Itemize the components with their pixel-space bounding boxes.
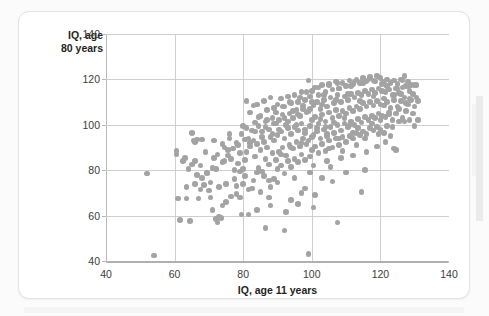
- data-point: [347, 122, 353, 128]
- data-point: [369, 121, 375, 127]
- data-point: [175, 196, 181, 202]
- data-point: [239, 131, 245, 137]
- data-point: [247, 140, 253, 146]
- data-point: [297, 95, 303, 101]
- data-point: [403, 108, 409, 114]
- data-point: [312, 192, 318, 198]
- data-point: [244, 149, 250, 155]
- figure-card: IQ, age 80 years 406080100120140 4060801…: [18, 11, 470, 299]
- data-point: [225, 147, 231, 153]
- data-point: [186, 166, 192, 172]
- data-point: [295, 159, 301, 165]
- data-point: [376, 131, 382, 137]
- x-axis-label: IQ, age 11 years: [106, 284, 449, 296]
- y-tick-label: 100: [82, 119, 100, 131]
- data-point: [208, 180, 214, 186]
- data-point: [336, 136, 342, 142]
- data-point: [252, 129, 258, 135]
- data-point: [275, 180, 281, 186]
- data-point: [403, 100, 409, 106]
- data-point: [391, 92, 397, 98]
- data-point: [396, 106, 402, 112]
- data-point: [223, 199, 229, 205]
- data-point: [151, 253, 157, 259]
- data-point: [280, 145, 286, 151]
- data-point: [398, 91, 404, 97]
- data-point: [348, 83, 354, 89]
- data-point: [302, 130, 308, 136]
- x-tick-label: 80: [237, 268, 249, 280]
- data-point: [268, 95, 274, 101]
- data-point: [362, 167, 368, 173]
- data-point: [242, 173, 248, 179]
- y-tick-label: 60: [88, 210, 100, 222]
- data-point: [319, 141, 325, 147]
- data-point: [237, 150, 243, 156]
- data-point: [312, 144, 318, 150]
- data-point: [264, 145, 270, 151]
- data-point: [287, 99, 293, 105]
- data-point: [364, 149, 370, 155]
- data-point: [268, 203, 274, 209]
- data-point: [359, 189, 365, 195]
- data-point: [306, 251, 312, 257]
- data-point: [354, 142, 360, 148]
- data-point: [240, 181, 246, 187]
- data-point: [270, 131, 276, 137]
- data-point: [357, 106, 363, 112]
- data-point: [251, 178, 257, 184]
- data-point: [276, 127, 282, 133]
- data-point: [282, 136, 288, 142]
- data-point: [244, 98, 250, 104]
- data-point: [326, 146, 332, 152]
- data-point: [270, 150, 276, 156]
- data-point: [372, 79, 378, 85]
- data-point: [350, 130, 356, 136]
- data-point: [264, 117, 270, 123]
- data-point: [379, 81, 385, 87]
- data-point: [311, 163, 317, 169]
- data-point: [174, 148, 180, 154]
- y-tick-label: 140: [82, 28, 100, 40]
- data-point: [285, 119, 291, 125]
- data-point: [177, 217, 183, 223]
- data-point: [307, 106, 313, 112]
- data-point: [235, 161, 241, 167]
- data-point: [343, 170, 349, 176]
- data-point: [324, 131, 330, 137]
- data-point: [330, 179, 336, 185]
- data-point: [338, 128, 344, 134]
- data-point: [234, 191, 240, 197]
- data-point: [256, 114, 262, 120]
- data-point: [278, 96, 284, 102]
- data-point: [144, 171, 150, 177]
- y-tick-label: 120: [82, 73, 100, 85]
- data-point: [218, 215, 224, 221]
- data-point: [246, 212, 252, 218]
- data-point: [345, 91, 351, 97]
- data-point: [282, 228, 288, 234]
- data-point: [208, 195, 214, 201]
- data-point: [199, 175, 205, 181]
- x-tick-label: 40: [100, 268, 112, 280]
- data-point: [350, 153, 356, 159]
- data-point: [294, 122, 300, 128]
- x-tick-label: 140: [440, 268, 458, 280]
- scatter-plot: 406080100120140 406080100120140: [106, 34, 449, 261]
- data-point: [252, 154, 258, 160]
- data-point: [187, 218, 193, 224]
- scatter-points-layer: [106, 34, 449, 261]
- data-point: [278, 152, 284, 158]
- data-point: [203, 149, 209, 155]
- data-point: [227, 136, 233, 142]
- data-point: [189, 130, 195, 136]
- data-point: [288, 164, 294, 170]
- data-point: [309, 99, 315, 105]
- data-point: [335, 80, 341, 86]
- data-point: [211, 138, 217, 144]
- scan-artifact-right-inner: [472, 104, 476, 176]
- x-tick-label: 100: [303, 268, 321, 280]
- data-point: [254, 141, 260, 147]
- data-point: [336, 86, 342, 92]
- data-point: [412, 104, 418, 110]
